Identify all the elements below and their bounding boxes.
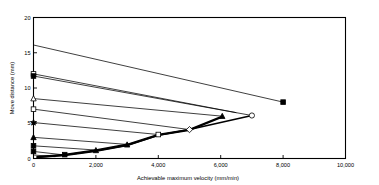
plot-frame: [34, 18, 346, 159]
y-axis-title: Move distance (mm): [9, 62, 15, 115]
chart-canvas: 02,0004,0006,0008,00010,000 05101520 Ach…: [0, 0, 379, 185]
x-tick-label: 8,000: [276, 162, 290, 168]
data-point-square: [31, 74, 36, 79]
x-tick-label: 0: [32, 162, 35, 168]
plot-area-border: [34, 18, 346, 159]
limit-line: [34, 109, 190, 129]
limit-line: [34, 45, 284, 102]
envelope-line: [37, 117, 223, 157]
data-point-triangle: [31, 134, 36, 139]
data-point-star: [30, 119, 36, 125]
envelope-line: [37, 116, 252, 158]
x-axis-title: Achievable maximum velocity (mm/min): [137, 175, 239, 181]
y-tick-label: 5: [27, 120, 30, 126]
data-point-square: [31, 107, 36, 112]
data-markers-layer: [30, 72, 285, 157]
data-point-square: [31, 144, 36, 149]
data-point-square: [156, 132, 161, 137]
x-tick-label: 6,000: [214, 162, 228, 168]
y-axis-tick-labels: 05101520: [24, 15, 30, 162]
x-axis-tick-labels: 02,0004,0006,0008,00010,000: [32, 162, 354, 168]
limit-line: [34, 76, 252, 115]
y-tick-label: 10: [24, 85, 30, 91]
data-point-circle: [249, 113, 254, 118]
data-point-square: [281, 100, 286, 105]
y-tick-label: 20: [24, 15, 30, 21]
data-point-diamond: [186, 126, 192, 132]
data-point-square: [62, 152, 67, 157]
envelope-line: [37, 116, 223, 157]
limit-line: [34, 146, 96, 150]
envelope-series-layer: [37, 116, 252, 158]
data-point-square: [31, 149, 36, 154]
y-tick-label: 0: [27, 156, 30, 162]
limit-line: [34, 99, 223, 117]
x-tick-label: 2,000: [89, 162, 103, 168]
limit-line: [34, 123, 159, 135]
limit-line: [34, 137, 128, 144]
chart-figure: 02,0004,0006,0008,00010,000 05101520 Ach…: [0, 0, 379, 185]
data-point-triangle: [31, 96, 36, 101]
x-tick-label: 4,000: [151, 162, 165, 168]
x-tick-label: 10,000: [337, 162, 354, 168]
data-series-layer: [34, 45, 284, 157]
y-tick-label: 15: [24, 50, 30, 56]
